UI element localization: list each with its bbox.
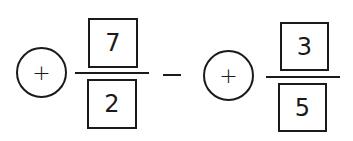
right-numerator-box: 3	[280, 22, 329, 71]
right-numerator: 3	[297, 33, 312, 61]
left-denominator: 2	[104, 90, 119, 118]
right-fraction-bar	[266, 76, 340, 78]
left-fraction-bar	[75, 72, 149, 74]
left-numerator-box: 7	[88, 18, 138, 68]
right-denominator: 5	[295, 94, 310, 122]
plus-sign: +	[219, 63, 237, 88]
right-sign-circle: +	[203, 50, 254, 101]
left-denominator-box: 2	[87, 79, 137, 129]
left-numerator: 7	[105, 29, 120, 57]
minus-operator	[163, 74, 181, 76]
plus-sign: +	[32, 60, 50, 85]
right-denominator-box: 5	[278, 83, 327, 132]
left-sign-circle: +	[16, 47, 67, 98]
